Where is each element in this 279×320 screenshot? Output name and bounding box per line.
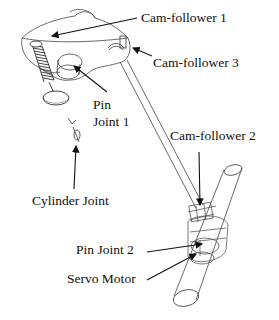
arrow-pin-joint-1: [74, 66, 107, 92]
label-servo-motor: Servo Motor: [67, 271, 136, 286]
label-pin-joint-2: Pin Joint 2: [76, 242, 134, 257]
label-cam-follower-1: Cam-follower 1: [141, 10, 227, 25]
cam-follower-3-part: [108, 36, 126, 50]
arrow-cam-follower-3: [133, 48, 152, 56]
cylinder-joint-part: [68, 118, 80, 142]
label-cam-follower-2: Cam-follower 2: [170, 128, 256, 143]
label-pin-joint-1-line1: Pin: [93, 97, 111, 112]
arrow-servo-motor: [147, 254, 196, 280]
spring: [30, 41, 69, 105]
mechanism-diagram: Cam-follower 1 Cam-follower 3 Pin Joint …: [0, 0, 279, 320]
lower-cylinder: [171, 163, 243, 309]
mechanism-drawing: [0, 0, 279, 320]
arrow-cylinder-joint: [74, 146, 76, 189]
label-cam-follower-3: Cam-follower 3: [153, 55, 239, 70]
label-cylinder-joint: Cylinder Joint: [32, 193, 109, 208]
arrow-cam-follower-1: [52, 18, 137, 36]
label-pin-joint-1-line2: Joint 1: [93, 114, 129, 129]
